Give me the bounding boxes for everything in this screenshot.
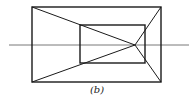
convergence-rays [32, 7, 161, 82]
outer-rectangle [32, 7, 161, 82]
ray-outer-top-right [135, 7, 161, 45]
figure-caption: (b) [0, 84, 194, 95]
ray-outer-top-left [32, 7, 135, 45]
